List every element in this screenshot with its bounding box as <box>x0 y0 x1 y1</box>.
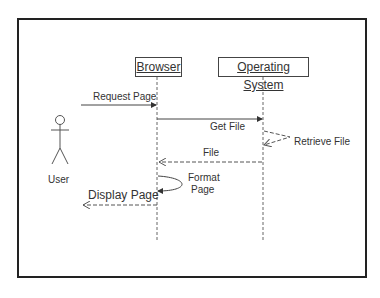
display-page-label: Display Page <box>88 189 159 201</box>
format-page-arrow <box>158 176 182 191</box>
user-actor-icon <box>51 116 69 165</box>
format-page-label-1: Format <box>188 173 220 183</box>
diagram-lines <box>0 0 380 298</box>
browser-object: Browser <box>135 57 182 77</box>
os-object: Operating System <box>218 57 309 77</box>
get-file-label: Get File <box>210 122 245 132</box>
request-page-label: Request Page <box>93 92 156 102</box>
retrieve-file-label: Retrieve File <box>294 137 350 147</box>
retrieve-file-arrow <box>264 131 290 145</box>
format-page-label-2: Page <box>191 185 214 195</box>
user-label: User <box>48 175 69 185</box>
file-label: File <box>203 148 219 158</box>
